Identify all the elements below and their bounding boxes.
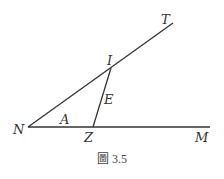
label-M: M (194, 130, 209, 145)
line-NT (28, 23, 173, 127)
label-A: A (59, 112, 69, 127)
label-I: I (106, 53, 113, 68)
figure-caption: 圖 3.5 (0, 149, 224, 167)
label-N: N (12, 122, 25, 137)
label-Z: Z (83, 130, 94, 145)
label-T: T (161, 12, 171, 27)
label-E: E (103, 92, 114, 107)
